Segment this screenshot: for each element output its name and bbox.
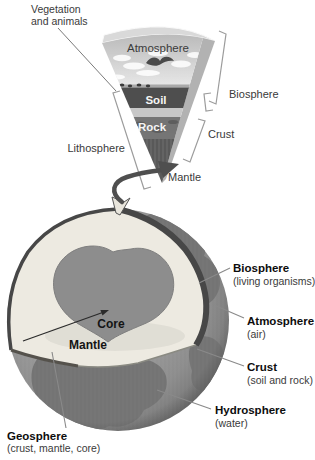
globe-mantle-label: Mantle <box>69 338 107 352</box>
callout-geosphere-title: Geosphere <box>7 430 67 442</box>
ground-line <box>95 85 220 88</box>
wedge-crust-label: Crust <box>208 128 234 140</box>
core-label: Core <box>97 317 125 331</box>
callout-hydrosphere-subtitle: (water) <box>215 417 248 429</box>
vegetation-label-line2: and animals <box>31 15 88 27</box>
lithosphere-label: Lithosphere <box>68 142 126 154</box>
soil-layer-label: Soil <box>145 94 166 106</box>
crust-bracket <box>183 119 205 162</box>
callout-hydrosphere-title: Hydrosphere <box>215 404 286 416</box>
callout-geosphere-subtitle: (crust, mantle, core) <box>7 442 100 454</box>
callout-atmosphere-title: Atmosphere <box>247 315 314 327</box>
atmosphere-layer-label: Atmosphere <box>127 42 189 54</box>
callout-atmosphere-subtitle: (air) <box>247 328 266 340</box>
earth-spheres-diagram: Core Mantle <box>0 0 315 460</box>
wedge-mantle-label: Mantle <box>168 171 201 183</box>
diagram-canvas: Core Mantle <box>0 0 315 460</box>
vegetation-label-line1: Vegetation <box>31 3 81 15</box>
globe-illustration: Core Mantle <box>7 197 229 431</box>
rock-layer-label: Rock <box>138 121 167 133</box>
callout-biosphere-title: Biosphere <box>233 262 289 274</box>
callout-biosphere-subtitle: (living organisms) <box>233 275 315 287</box>
callout-crust-title: Crust <box>247 361 277 373</box>
wedge-biosphere-label: Biosphere <box>229 88 279 100</box>
callout-crust-subtitle: (soil and rock) <box>247 374 313 386</box>
subsoil-layer <box>95 108 220 117</box>
wedge-illustration: Atmosphere Soil Rock Vegetation and anim… <box>31 3 279 189</box>
